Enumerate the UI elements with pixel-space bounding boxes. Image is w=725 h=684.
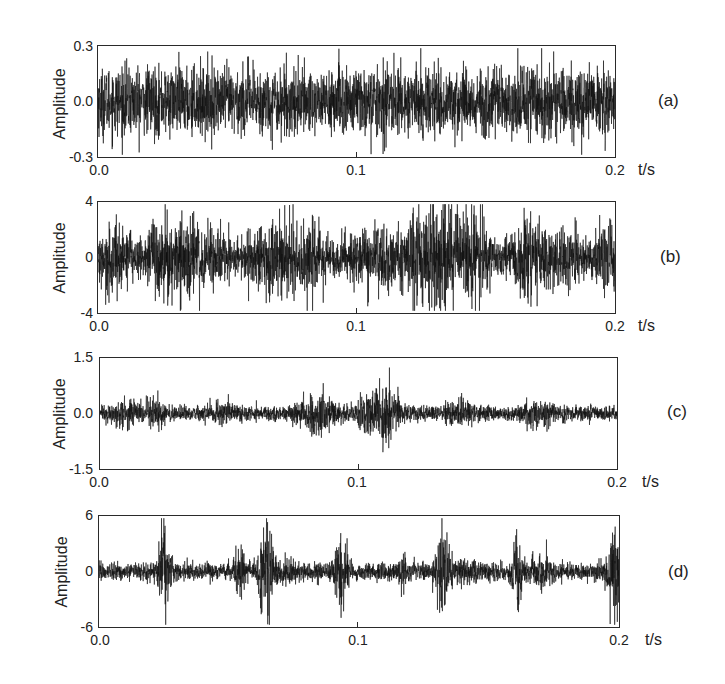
- x-tick-mark: [358, 464, 359, 469]
- y-tick-bottom: -6: [43, 620, 93, 634]
- x-tick-start: 0.0: [89, 475, 108, 489]
- plot-frame: [99, 357, 618, 470]
- x-tick-end: 0.2: [605, 163, 624, 177]
- x-tick-start: 0.0: [89, 319, 108, 333]
- x-tick-start: 0.0: [89, 163, 108, 177]
- signal-trace: [100, 368, 617, 453]
- waveform: [100, 358, 617, 469]
- plot-frame: [97, 201, 616, 314]
- x-tick-end: 0.2: [607, 475, 626, 489]
- plot-frame: [98, 515, 620, 628]
- x-tick-end: 0.2: [605, 319, 624, 333]
- y-tick-top: 6: [43, 508, 93, 522]
- signal-trace: [99, 518, 619, 625]
- y-tick-top: 1.5: [43, 350, 93, 364]
- panel-label: (c): [667, 402, 687, 422]
- x-tick-mid: 0.1: [346, 319, 365, 333]
- panel-label: (d): [668, 562, 689, 582]
- waveform: [99, 516, 619, 627]
- x-tick-mark: [356, 308, 357, 313]
- x-tick-mid: 0.1: [347, 475, 366, 489]
- panel-label: (b): [660, 247, 681, 267]
- x-axis-unit: t/s: [638, 161, 655, 179]
- signal-trace: [98, 48, 615, 155]
- y-tick-bottom: -1.5: [43, 462, 93, 476]
- waveform: [98, 202, 615, 313]
- y-tick-mid: 0.0: [43, 94, 93, 108]
- x-tick-end: 0.2: [609, 633, 628, 647]
- x-tick-mark: [356, 152, 357, 157]
- y-tick-mid: 0: [43, 250, 93, 264]
- y-tick-top: 0.3: [43, 39, 93, 53]
- y-tick-mid: 0.0: [43, 406, 93, 420]
- x-axis-unit: t/s: [642, 473, 659, 491]
- x-axis-unit: t/s: [638, 317, 655, 335]
- x-tick-mid: 0.1: [348, 633, 367, 647]
- x-tick-start: 0.0: [90, 633, 109, 647]
- y-tick-top: 4: [43, 194, 93, 208]
- y-tick-mid: 0: [43, 564, 93, 578]
- y-tick-bottom: -0.3: [43, 150, 93, 164]
- plot-frame: [97, 45, 616, 158]
- signal-trace: [98, 204, 615, 311]
- x-tick-mid: 0.1: [346, 163, 365, 177]
- panel-label: (a): [658, 91, 679, 111]
- x-tick-mark: [357, 622, 358, 627]
- x-axis-unit: t/s: [645, 631, 662, 649]
- y-tick-bottom: -4: [43, 306, 93, 320]
- waveform: [98, 46, 615, 157]
